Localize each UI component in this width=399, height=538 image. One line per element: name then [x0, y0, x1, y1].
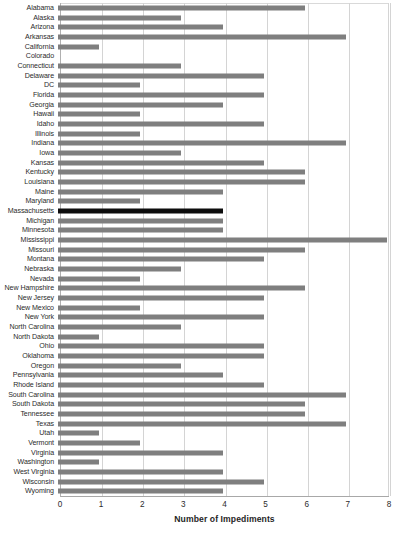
- chart-row[interactable]: Oregon: [0, 361, 399, 371]
- chart-row[interactable]: Wyoming: [0, 487, 399, 497]
- bar-idaho[interactable]: [58, 121, 264, 126]
- bar-kentucky[interactable]: [58, 170, 305, 175]
- chart-row[interactable]: Tennessee: [0, 409, 399, 419]
- chart-row[interactable]: Texas: [0, 419, 399, 429]
- chart-row[interactable]: Kentucky: [0, 167, 399, 177]
- bar-new-hampshire[interactable]: [58, 286, 305, 291]
- chart-row[interactable]: DC: [0, 80, 399, 90]
- chart-row[interactable]: Delaware: [0, 71, 399, 81]
- bar-illinois[interactable]: [58, 131, 140, 136]
- bar-michigan[interactable]: [58, 218, 223, 223]
- chart-row[interactable]: Colorado: [0, 51, 399, 61]
- bar-hawaii[interactable]: [58, 112, 140, 117]
- bar-alaska[interactable]: [58, 15, 181, 20]
- chart-row[interactable]: Maine: [0, 187, 399, 197]
- bar-arizona[interactable]: [58, 25, 223, 30]
- chart-row[interactable]: New Mexico: [0, 303, 399, 313]
- bar-kansas[interactable]: [58, 160, 264, 165]
- bar-washington[interactable]: [58, 460, 99, 465]
- bar-utah[interactable]: [58, 431, 99, 436]
- bar-florida[interactable]: [58, 92, 264, 97]
- chart-row[interactable]: Connecticut: [0, 61, 399, 71]
- chart-row[interactable]: Alabama: [0, 3, 399, 13]
- bar-texas[interactable]: [58, 421, 346, 426]
- bar-ohio[interactable]: [58, 344, 264, 349]
- bar-nevada[interactable]: [58, 276, 140, 281]
- bar-alabama[interactable]: [58, 5, 305, 10]
- chart-row[interactable]: Massachusetts: [0, 206, 399, 216]
- chart-row[interactable]: Maryland: [0, 196, 399, 206]
- bar-montana[interactable]: [58, 257, 264, 262]
- chart-row[interactable]: Missouri: [0, 245, 399, 255]
- chart-row[interactable]: Rhode Island: [0, 380, 399, 390]
- chart-row[interactable]: Hawaii: [0, 109, 399, 119]
- chart-row[interactable]: Iowa: [0, 148, 399, 158]
- bar-arkansas[interactable]: [58, 34, 346, 39]
- bar-west-virginia[interactable]: [58, 470, 223, 475]
- chart-row[interactable]: Minnesota: [0, 225, 399, 235]
- bar-vermont[interactable]: [58, 441, 140, 446]
- chart-row[interactable]: Arizona: [0, 22, 399, 32]
- chart-row[interactable]: Kansas: [0, 158, 399, 168]
- bar-pennsylvania[interactable]: [58, 373, 223, 378]
- chart-row[interactable]: Oklahoma: [0, 351, 399, 361]
- chart-row[interactable]: Nebraska: [0, 264, 399, 274]
- chart-row[interactable]: Nevada: [0, 274, 399, 284]
- chart-row[interactable]: North Dakota: [0, 332, 399, 342]
- bar-louisiana[interactable]: [58, 179, 305, 184]
- bar-north-carolina[interactable]: [58, 325, 181, 330]
- bar-south-dakota[interactable]: [58, 402, 305, 407]
- chart-row[interactable]: Arkansas: [0, 32, 399, 42]
- bar-california[interactable]: [58, 44, 99, 49]
- bar-mississippi[interactable]: [58, 237, 387, 242]
- bar-nebraska[interactable]: [58, 266, 181, 271]
- bar-oklahoma[interactable]: [58, 354, 264, 359]
- chart-row[interactable]: New Jersey: [0, 293, 399, 303]
- bar-connecticut[interactable]: [58, 63, 181, 68]
- bar-maryland[interactable]: [58, 199, 140, 204]
- chart-row[interactable]: Ohio: [0, 342, 399, 352]
- chart-row[interactable]: South Dakota: [0, 400, 399, 410]
- bar-rhode-island[interactable]: [58, 383, 264, 388]
- chart-row[interactable]: Mississippi: [0, 235, 399, 245]
- chart-row[interactable]: Montana: [0, 254, 399, 264]
- chart-row[interactable]: Washington: [0, 458, 399, 468]
- bar-new-york[interactable]: [58, 315, 264, 320]
- bar-virginia[interactable]: [58, 450, 223, 455]
- chart-row[interactable]: South Carolina: [0, 390, 399, 400]
- bar-new-mexico[interactable]: [58, 305, 140, 310]
- chart-row[interactable]: Virginia: [0, 448, 399, 458]
- bar-missouri[interactable]: [58, 247, 305, 252]
- chart-row[interactable]: New York: [0, 313, 399, 323]
- chart-row[interactable]: West Virginia: [0, 467, 399, 477]
- chart-row[interactable]: Idaho: [0, 119, 399, 129]
- chart-row[interactable]: New Hampshire: [0, 283, 399, 293]
- bar-new-jersey[interactable]: [58, 295, 264, 300]
- bar-iowa[interactable]: [58, 150, 181, 155]
- bar-maine[interactable]: [58, 189, 223, 194]
- bar-south-carolina[interactable]: [58, 392, 346, 397]
- bar-oregon[interactable]: [58, 363, 181, 368]
- chart-row[interactable]: Utah: [0, 429, 399, 439]
- bar-tennessee[interactable]: [58, 412, 305, 417]
- chart-row[interactable]: North Carolina: [0, 322, 399, 332]
- bar-dc[interactable]: [58, 83, 140, 88]
- chart-row[interactable]: California: [0, 42, 399, 52]
- bar-north-dakota[interactable]: [58, 334, 99, 339]
- chart-row[interactable]: Alaska: [0, 13, 399, 23]
- chart-row[interactable]: Illinois: [0, 129, 399, 139]
- chart-row[interactable]: Vermont: [0, 438, 399, 448]
- bar-georgia[interactable]: [58, 102, 223, 107]
- chart-row[interactable]: Wisconsin: [0, 477, 399, 487]
- chart-row[interactable]: Pennsylvania: [0, 371, 399, 381]
- chart-row[interactable]: Georgia: [0, 100, 399, 110]
- bar-delaware[interactable]: [58, 73, 264, 78]
- bar-minnesota[interactable]: [58, 228, 223, 233]
- bar-indiana[interactable]: [58, 141, 346, 146]
- bar-massachusetts[interactable]: [58, 208, 223, 213]
- bar-wyoming[interactable]: [58, 489, 223, 494]
- chart-row[interactable]: Louisiana: [0, 177, 399, 187]
- chart-row[interactable]: Indiana: [0, 138, 399, 148]
- chart-row[interactable]: Michigan: [0, 216, 399, 226]
- bar-wisconsin[interactable]: [58, 479, 264, 484]
